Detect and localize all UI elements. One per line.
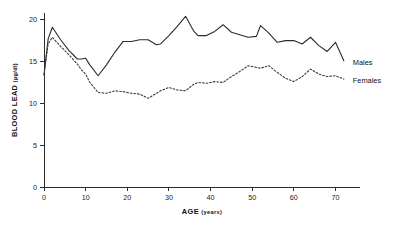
x-axis-title: AGE (years): [182, 207, 222, 216]
x-tick-label: 10: [82, 193, 90, 202]
y-axis-ticks: 05101520: [29, 15, 44, 191]
chart-plot-area: 05101520 010203040506070 MalesFemales AG…: [0, 0, 409, 236]
x-tick-label: 60: [290, 193, 298, 202]
y-tick-label: 20: [29, 15, 37, 24]
series-label-females: Females: [353, 76, 382, 85]
x-axis: 010203040506070: [42, 187, 360, 202]
y-tick-label: 15: [29, 57, 37, 66]
x-tick-label: 50: [248, 193, 256, 202]
y-axis-title: BLOOD LEAD (µg/dl): [10, 63, 19, 137]
x-tick-label: 70: [332, 193, 340, 202]
x-tick-label: 30: [165, 193, 173, 202]
blood-lead-vs-age-chart: 05101520 010203040506070 MalesFemales AG…: [0, 0, 409, 236]
series-line-males: [44, 16, 344, 75]
x-tick-label: 0: [42, 193, 46, 202]
series-inline-labels: MalesFemales: [353, 58, 382, 85]
y-tick-label: 5: [33, 141, 37, 150]
series-line-females: [44, 37, 344, 98]
x-tick-label: 20: [123, 193, 131, 202]
y-tick-label: 10: [29, 99, 37, 108]
series-label-males: Males: [353, 58, 373, 67]
y-axis-title-group: BLOOD LEAD (µg/dl): [10, 63, 19, 137]
y-tick-label: 0: [33, 183, 37, 192]
y-axis: 05101520: [29, 13, 44, 192]
x-axis-ticks: 010203040506070: [42, 187, 340, 202]
x-tick-label: 40: [207, 193, 215, 202]
